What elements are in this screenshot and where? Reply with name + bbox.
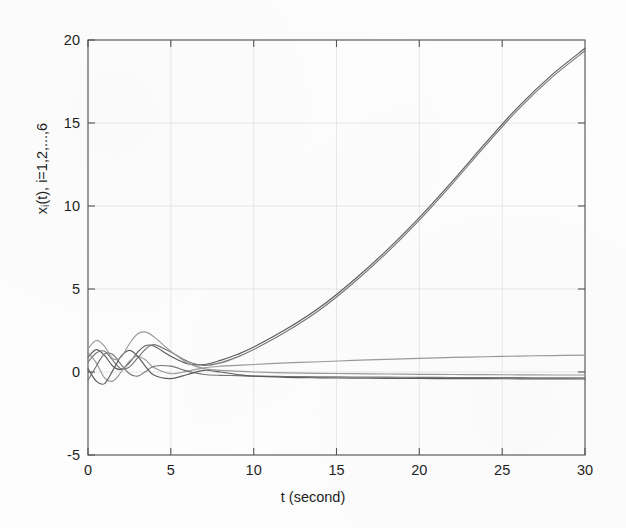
- xtick-label-10: 10: [246, 462, 262, 478]
- grid-lines: [88, 40, 585, 455]
- y-axis-label-suffix: (t), i=1,2,...,6: [34, 123, 50, 205]
- ytick-label-20: 20: [46, 32, 80, 48]
- figure-panel: 0 5 10 15 20 25 30 20 15 10 5 0 -5 t (se…: [0, 0, 626, 528]
- ytick-label-0: 0: [46, 364, 80, 380]
- y-axis-label-subscript: i: [39, 205, 51, 207]
- xtick-label-25: 25: [494, 462, 510, 478]
- ytick-label-5: 5: [46, 281, 80, 297]
- xtick-label-0: 0: [84, 462, 92, 478]
- y-axis-label: xi(t), i=1,2,...,6: [34, 39, 51, 299]
- xtick-label-30: 30: [577, 462, 593, 478]
- xtick-label-5: 5: [167, 462, 175, 478]
- ytick-label-10: 10: [46, 198, 80, 214]
- y-axis-label-prefix: x: [34, 207, 50, 214]
- ytick-label-15: 15: [46, 115, 80, 131]
- xtick-label-15: 15: [328, 462, 344, 478]
- ytick-label-minus5: -5: [46, 447, 80, 463]
- xtick-label-20: 20: [411, 462, 427, 478]
- x-axis-label: t (second): [0, 489, 626, 505]
- plot-canvas: [0, 0, 626, 528]
